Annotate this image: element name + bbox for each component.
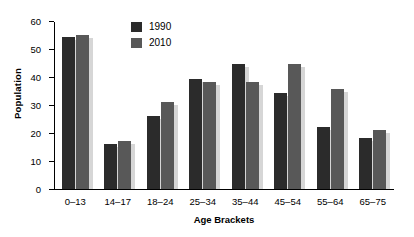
bar-fill	[331, 89, 344, 188]
legend-swatch-icon	[131, 22, 142, 32]
x-tick-label: 45–54	[267, 196, 310, 207]
y-tick-label: 0	[36, 183, 41, 194]
y-tick-label: 30	[30, 99, 41, 110]
bar-group	[267, 22, 310, 189]
legend-item-2010: 2010	[131, 37, 171, 48]
bar-1990-35–44	[232, 64, 245, 189]
bar-chart: Population 0102030405060 0–1314–1718–242…	[0, 0, 414, 237]
x-tick-label: 14–17	[97, 196, 140, 207]
y-tick: 0	[49, 189, 54, 190]
bar-1990-45–54	[274, 93, 287, 188]
bar-2010-35–44	[246, 82, 259, 188]
bar-fill	[104, 144, 117, 189]
bar-fill	[232, 64, 245, 189]
bar-2010-25–34	[203, 82, 216, 188]
bar-1990-0–13	[62, 37, 75, 188]
bar-groups	[54, 22, 394, 189]
y-tick-label: 60	[30, 15, 41, 26]
bar-1990-55–64	[317, 127, 330, 189]
x-tick-label: 18–24	[139, 196, 182, 207]
bar-group	[352, 22, 395, 189]
y-tick-label: 20	[30, 127, 41, 138]
bar-fill	[288, 64, 301, 189]
bar-2010-0–13	[76, 35, 89, 189]
legend-swatch-icon	[131, 38, 142, 48]
bar-group	[182, 22, 225, 189]
bar-2010-18–24	[161, 102, 174, 189]
bar-fill	[274, 93, 287, 188]
plot-area: 0102030405060	[54, 22, 394, 190]
bar-1990-14–17	[104, 144, 117, 189]
bar-group	[309, 22, 352, 189]
x-axis-line	[54, 189, 394, 190]
bar-2010-55–64	[331, 89, 344, 188]
x-tick-label: 35–44	[224, 196, 267, 207]
bar-fill	[161, 102, 174, 189]
bar-1990-18–24	[147, 116, 160, 189]
bar-fill	[62, 37, 75, 188]
x-axis-title: Age Brackets	[54, 214, 394, 225]
bar-fill	[203, 82, 216, 188]
bar-fill	[359, 138, 372, 188]
bar-fill	[189, 79, 202, 188]
bar-group	[54, 22, 97, 189]
bar-fill	[147, 116, 160, 189]
bar-fill	[317, 127, 330, 189]
x-tick-label: 0–13	[54, 196, 97, 207]
bar-2010-65–75	[373, 130, 386, 189]
x-axis-tick-labels: 0–1314–1718–2425–3435–4445–5455–6465–75	[54, 196, 394, 207]
legend-label: 2010	[149, 37, 171, 48]
y-tick-label: 40	[30, 71, 41, 82]
bar-fill	[118, 141, 131, 189]
y-tick-label: 10	[30, 155, 41, 166]
legend-item-1990: 1990	[131, 21, 171, 32]
y-axis-title: Population	[12, 49, 23, 139]
legend-label: 1990	[149, 21, 171, 32]
bar-1990-65–75	[359, 138, 372, 188]
bar-fill	[373, 130, 386, 189]
bar-1990-25–34	[189, 79, 202, 188]
bar-fill	[76, 35, 89, 189]
x-tick-label: 25–34	[182, 196, 225, 207]
legend: 19902010	[131, 21, 171, 48]
x-tick-label: 55–64	[309, 196, 352, 207]
bar-fill	[246, 82, 259, 188]
bar-2010-14–17	[118, 141, 131, 189]
bar-group	[224, 22, 267, 189]
bar-2010-45–54	[288, 64, 301, 189]
y-tick-label: 50	[30, 43, 41, 54]
x-tick-label: 65–75	[352, 196, 395, 207]
